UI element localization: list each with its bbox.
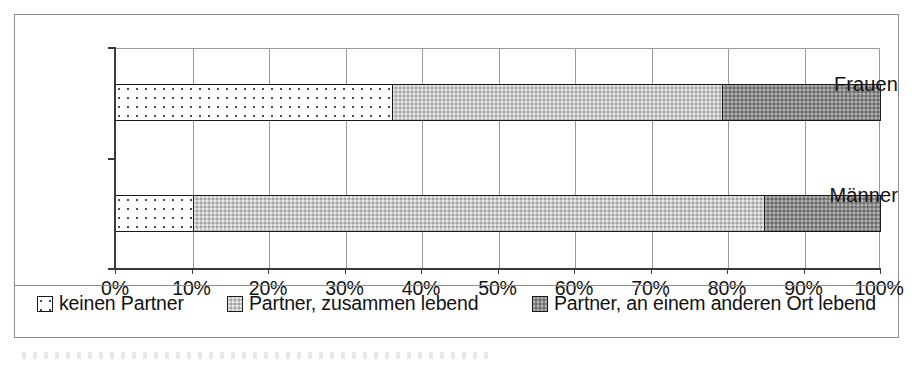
xtick-90	[804, 269, 805, 274]
gridline-30	[346, 49, 347, 268]
category-label-frauen: Frauen	[806, 73, 898, 96]
legend-swatch-zusammen-lebend-icon	[227, 296, 243, 312]
xtick-100	[880, 269, 881, 274]
bar-group-maenner	[115, 195, 882, 232]
bar-group-frauen	[115, 84, 882, 121]
gridline-80	[728, 49, 729, 268]
gridline-10	[193, 49, 194, 268]
bar-segment-frauen-keinen-partner[interactable]	[115, 84, 393, 121]
bar-segment-maenner-keinen-partner[interactable]	[115, 195, 194, 232]
legend-label-zusammen-lebend: Partner, zusammen lebend	[249, 292, 478, 315]
xtick-60	[574, 269, 575, 274]
legend-item-zusammen-lebend[interactable]: Partner, zusammen lebend	[227, 292, 478, 315]
gridline-50	[499, 49, 500, 268]
legend-swatch-keinen-partner-icon	[37, 296, 53, 312]
category-tick-mid	[108, 158, 115, 160]
gridline-60	[575, 49, 576, 268]
gridline-40	[422, 49, 423, 268]
xtick-40	[421, 269, 422, 274]
legend-swatch-anderer-ort-icon	[532, 296, 548, 312]
legend-item-keinen-partner[interactable]: keinen Partner	[37, 292, 184, 315]
xtick-50	[498, 269, 499, 274]
category-tick-bottom	[108, 268, 115, 270]
legend-label-keinen-partner: keinen Partner	[59, 292, 184, 315]
xtick-10	[192, 269, 193, 274]
scan-artifact	[22, 352, 492, 359]
chart-figure: Frauen Männer 0% 10% 20% 30% 40% 50% 60%…	[0, 0, 919, 365]
category-tick-top	[108, 47, 115, 49]
gridline-70	[652, 49, 653, 268]
bar-segment-maenner-zusammen-lebend[interactable]	[193, 195, 765, 232]
chart-legend: keinen Partner Partner, zusammen lebend …	[15, 285, 898, 323]
gridline-20	[269, 49, 270, 268]
category-label-maenner: Männer	[806, 184, 898, 207]
xtick-30	[345, 269, 346, 274]
plot-area	[115, 48, 880, 269]
legend-label-anderer-ort: Partner, an einem anderen Ort lebend	[554, 292, 876, 315]
xtick-20	[268, 269, 269, 274]
xtick-80	[727, 269, 728, 274]
bar-segment-frauen-zusammen-lebend[interactable]	[392, 84, 723, 121]
legend-item-anderer-ort[interactable]: Partner, an einem anderen Ort lebend	[532, 292, 876, 315]
xtick-0	[115, 269, 116, 274]
xtick-70	[651, 269, 652, 274]
